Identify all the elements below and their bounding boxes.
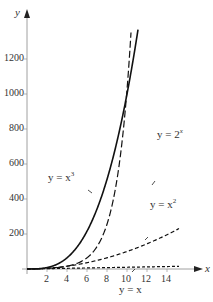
x-tick-label: 14: [161, 273, 171, 284]
x-tick-label: 8: [104, 273, 109, 284]
annotation-pointer-icon: [132, 269, 135, 272]
y-tick-label: 1000: [0, 87, 24, 98]
annotation-cube: y = x3: [48, 170, 74, 183]
annotation-cube-text: y = x: [48, 171, 71, 183]
annotation-pointer-icon: [152, 181, 155, 185]
y-axis-label: y: [15, 6, 20, 18]
x-axis-label: x: [205, 262, 210, 274]
annotation-exp: y = 2x: [157, 127, 183, 140]
x-tick-label: 4: [64, 273, 69, 284]
curve-cube: [27, 30, 138, 269]
annotation-square-exp: 2: [173, 197, 177, 205]
annotation-square-text: y = x: [150, 198, 173, 210]
x-axis-arrow-icon: [194, 266, 203, 272]
axes: [22, 16, 198, 274]
tick-marks: [24, 59, 167, 272]
annotation-exp-text: y = 2: [157, 128, 180, 140]
curves: [27, 30, 179, 272]
y-tick-label: 400: [0, 192, 24, 203]
x-tick-label: 12: [141, 273, 151, 284]
y-tick-label: 1200: [0, 52, 24, 63]
y-axis-arrow-icon: [24, 9, 30, 18]
y-tick-label: 200: [0, 227, 24, 238]
plot-area: [0, 0, 213, 302]
annotation-pointer-icon: [145, 237, 148, 240]
annotation-cube-exp: 3: [71, 170, 75, 178]
y-tick-label: 600: [0, 157, 24, 168]
y-tick-label: 800: [0, 122, 24, 133]
annotation-pointer-icon: [88, 190, 92, 193]
x-tick-label: 2: [44, 273, 49, 284]
annotation-square: y = x2: [150, 197, 176, 210]
x-tick-label: 6: [84, 273, 89, 284]
annotation-linear: y = x: [119, 283, 142, 295]
annotation-exp-exp: x: [180, 127, 183, 135]
